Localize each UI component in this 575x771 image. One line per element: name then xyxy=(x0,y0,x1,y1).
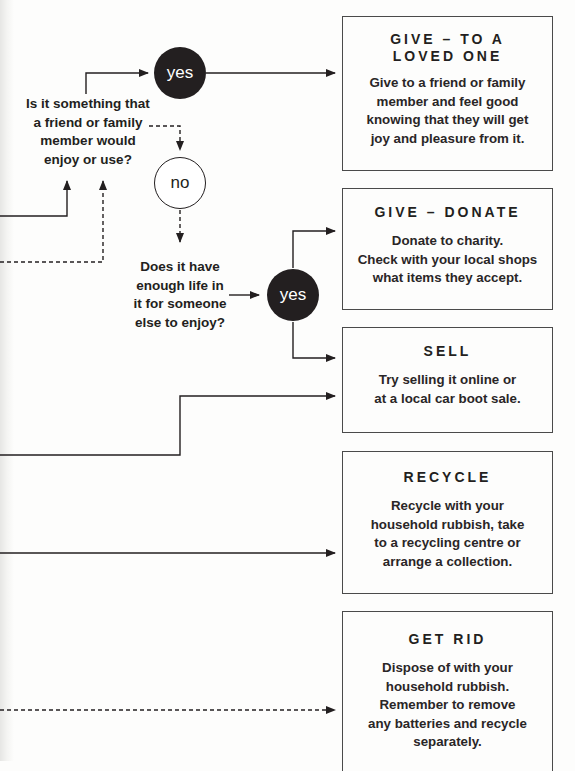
body-line: Dispose of with your xyxy=(351,659,544,678)
yes-label: yes xyxy=(167,63,193,83)
outcome-sell: SELL Try selling it online or at a local… xyxy=(342,327,553,433)
no-node: no xyxy=(154,157,206,209)
title-line: GET RID xyxy=(351,631,544,648)
title-line: SELL xyxy=(351,343,544,360)
question-line: it for someone xyxy=(130,295,230,314)
body-line: separately. xyxy=(351,733,544,752)
body-line: arrange a collection. xyxy=(351,553,544,572)
body-line: Try selling it online or xyxy=(351,371,544,390)
body-line: Give to a friend or family xyxy=(351,74,544,93)
question-friend-family: Is it something that a friend or family … xyxy=(18,95,158,169)
yes-node-second: yes xyxy=(267,269,319,321)
arrow-incoming-solid-to-q1 xyxy=(0,181,67,216)
body-line: household rubbish, take xyxy=(351,516,544,535)
title-line: GIVE – TO A xyxy=(351,31,544,48)
outcome-body: Give to a friend or family member and fe… xyxy=(351,74,544,148)
arrow-incoming-dashed-to-q1 xyxy=(0,181,103,262)
arrow-yes-to-donate xyxy=(293,231,335,268)
arrow-yes-to-sell xyxy=(293,322,335,358)
outcome-title: GIVE – TO A LOVED ONE xyxy=(351,31,544,65)
outcome-give-donate: GIVE – DONATE Donate to charity. Check w… xyxy=(342,188,553,310)
body-line: Recycle with your xyxy=(351,497,544,516)
body-line: household rubbish. xyxy=(351,678,544,697)
arrow-q1-to-yes xyxy=(86,73,148,94)
title-line: RECYCLE xyxy=(351,469,544,486)
title-line: GIVE – DONATE xyxy=(351,204,544,221)
question-line: enjoy or use? xyxy=(18,151,158,170)
body-line: knowing that they will get xyxy=(351,111,544,130)
body-line: what items they accept. xyxy=(351,269,544,288)
body-line: member and feel good xyxy=(351,93,544,112)
outcome-get-rid: GET RID Dispose of with your household r… xyxy=(342,611,553,771)
outcome-recycle: RECYCLE Recycle with your household rubb… xyxy=(342,451,553,594)
outcome-body: Donate to charity. Check with your local… xyxy=(351,232,544,288)
body-line: to a recycling centre or xyxy=(351,534,544,553)
yes-node-top: yes xyxy=(154,47,206,99)
body-line: Donate to charity. xyxy=(351,232,544,251)
body-line: Remember to remove xyxy=(351,696,544,715)
outcome-title: GIVE – DONATE xyxy=(351,204,544,221)
body-line: at a local car boot sale. xyxy=(351,390,544,409)
arrow-incoming-to-sell xyxy=(0,396,335,455)
outcome-body: Dispose of with your household rubbish. … xyxy=(351,659,544,752)
question-line: Is it something that xyxy=(18,95,158,114)
question-line: a friend or family xyxy=(18,114,158,133)
body-line: Check with your local shops xyxy=(351,251,544,270)
question-line: Does it have xyxy=(130,258,230,277)
outcome-body: Recycle with your household rubbish, tak… xyxy=(351,497,544,571)
body-line: any batteries and recycle xyxy=(351,715,544,734)
outcome-title: GET RID xyxy=(351,631,544,648)
outcome-body: Try selling it online or at a local car … xyxy=(351,371,544,408)
title-line: LOVED ONE xyxy=(351,48,544,65)
question-line: member would xyxy=(18,132,158,151)
question-enough-life: Does it have enough life in it for someo… xyxy=(130,258,230,332)
no-label: no xyxy=(171,173,190,193)
question-line: enough life in xyxy=(130,277,230,296)
outcome-give-loved-one: GIVE – TO A LOVED ONE Give to a friend o… xyxy=(342,16,553,171)
outcome-title: RECYCLE xyxy=(351,469,544,486)
body-line: joy and pleasure from it. xyxy=(351,130,544,149)
outcome-title: SELL xyxy=(351,343,544,360)
question-line: else to enjoy? xyxy=(130,314,230,333)
yes-label: yes xyxy=(280,285,306,305)
